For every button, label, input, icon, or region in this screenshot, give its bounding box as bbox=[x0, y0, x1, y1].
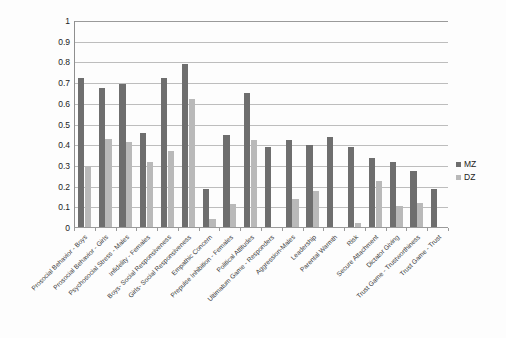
y-axis-tick-labels: 00.10.20.30.40.50.60.70.80.91 bbox=[30, 21, 70, 228]
bar-dz bbox=[396, 206, 402, 228]
y-axis-tick-label: 1 bbox=[30, 17, 70, 26]
y-axis-tick-label: 0.2 bbox=[30, 182, 70, 191]
x-axis-tick-mark bbox=[219, 228, 220, 231]
x-axis-tick-mark bbox=[427, 228, 428, 231]
bar-mz bbox=[99, 88, 105, 228]
bar-group bbox=[178, 21, 199, 228]
bar-mz bbox=[182, 64, 188, 228]
bar-group bbox=[95, 21, 116, 228]
bar-dz bbox=[251, 140, 257, 228]
bar-group bbox=[427, 21, 448, 228]
legend-item-dz[interactable]: DZ bbox=[456, 171, 504, 184]
x-axis-tick-mark bbox=[386, 228, 387, 231]
x-axis-tick-mark bbox=[116, 228, 117, 231]
x-axis-tick-mark bbox=[303, 228, 304, 231]
bar-dz bbox=[105, 139, 111, 228]
bar-mz bbox=[223, 135, 229, 228]
plot-area bbox=[74, 21, 448, 228]
x-axis-tick-mark bbox=[95, 228, 96, 231]
bar-dz bbox=[292, 199, 298, 228]
y-axis-tick-label: 0.5 bbox=[30, 120, 70, 129]
bar-mz bbox=[244, 93, 250, 228]
x-axis-tick-mark bbox=[136, 228, 137, 231]
legend-item-mz[interactable]: MZ bbox=[456, 158, 504, 171]
x-axis-tick-mark bbox=[365, 228, 366, 231]
bar-mz bbox=[286, 140, 292, 228]
y-axis-tick-label: 0.3 bbox=[30, 162, 70, 171]
bar-group bbox=[261, 21, 282, 228]
bar-dz bbox=[126, 142, 132, 228]
legend-label: MZ bbox=[464, 160, 476, 169]
bar-mz bbox=[327, 137, 333, 228]
bar-group bbox=[406, 21, 427, 228]
bar-dz bbox=[147, 162, 153, 228]
bar-group bbox=[303, 21, 324, 228]
y-axis-tick-label: 0 bbox=[30, 224, 70, 233]
y-axis-tick-label: 0.7 bbox=[30, 79, 70, 88]
bar-dz bbox=[85, 166, 91, 228]
y-axis-line bbox=[74, 21, 75, 228]
x-axis-tick-mark bbox=[178, 228, 179, 231]
y-axis-tick-label: 0.4 bbox=[30, 141, 70, 150]
x-axis-tick-mark bbox=[74, 228, 75, 231]
bar-group bbox=[157, 21, 178, 228]
bar-dz bbox=[189, 99, 195, 228]
x-axis-tick-mark bbox=[199, 228, 200, 231]
x-axis-tick-mark bbox=[261, 228, 262, 231]
y-axis-tick-label: 0.9 bbox=[30, 37, 70, 46]
legend: MZDZ bbox=[456, 158, 504, 184]
bar-group bbox=[240, 21, 261, 228]
bar-dz bbox=[230, 204, 236, 228]
bar-mz bbox=[431, 189, 437, 228]
legend-swatch-mz-icon bbox=[456, 162, 461, 167]
y-axis-tick-label: 0.8 bbox=[30, 58, 70, 67]
bar-group bbox=[323, 21, 344, 228]
x-axis-category-labels: Prosocial Behavior - BoysProsocial Behav… bbox=[0, 232, 506, 338]
bar-group bbox=[136, 21, 157, 228]
y-axis-tick-label: 0.6 bbox=[30, 100, 70, 109]
bar-group bbox=[386, 21, 407, 228]
bar-mz bbox=[369, 158, 375, 228]
bar-mz bbox=[348, 147, 354, 228]
bar-group bbox=[74, 21, 95, 228]
bar-dz bbox=[417, 203, 423, 228]
x-axis-tick-mark bbox=[406, 228, 407, 231]
x-axis-tick-mark bbox=[157, 228, 158, 231]
bar-mz bbox=[161, 78, 167, 228]
bar-mz bbox=[265, 147, 271, 228]
x-axis-tick-mark bbox=[240, 228, 241, 231]
x-axis-tick-mark bbox=[448, 228, 449, 231]
y-axis-tick-label: 0.1 bbox=[30, 203, 70, 212]
bars-layer bbox=[74, 21, 448, 228]
bar-mz bbox=[119, 84, 125, 228]
x-axis-tick-mark bbox=[323, 228, 324, 231]
bar-group bbox=[344, 21, 365, 228]
bar-group bbox=[219, 21, 240, 228]
bar-chart: 00.10.20.30.40.50.60.70.80.91 Prosocial … bbox=[0, 0, 506, 338]
legend-label: DZ bbox=[464, 173, 475, 182]
x-axis-tick-mark bbox=[344, 228, 345, 231]
bar-mz bbox=[390, 162, 396, 228]
bar-mz bbox=[306, 145, 312, 228]
bar-dz bbox=[313, 191, 319, 228]
bar-group bbox=[282, 21, 303, 228]
legend-swatch-dz-icon bbox=[456, 175, 461, 180]
bar-dz bbox=[376, 181, 382, 228]
bar-mz bbox=[203, 189, 209, 228]
bar-group bbox=[365, 21, 386, 228]
bar-mz bbox=[78, 78, 84, 228]
bar-group bbox=[116, 21, 137, 228]
bar-dz bbox=[168, 151, 174, 228]
x-axis-tick-mark bbox=[282, 228, 283, 231]
bar-mz bbox=[410, 171, 416, 228]
bar-group bbox=[199, 21, 220, 228]
bar-mz bbox=[140, 133, 146, 228]
